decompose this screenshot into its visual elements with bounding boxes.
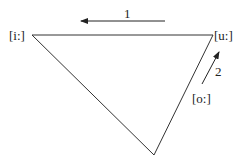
arrow-2-label: 2	[215, 64, 222, 79]
vertex-label-i: [i:]	[9, 28, 25, 43]
triangle	[32, 35, 213, 155]
label-o: [o:]	[192, 91, 211, 106]
arrow-1-label: 1	[124, 6, 131, 21]
vowel-triangle-diagram: [i:] [u:] [o:] 1 2	[0, 0, 245, 165]
vertex-label-u: [u:]	[214, 28, 233, 43]
